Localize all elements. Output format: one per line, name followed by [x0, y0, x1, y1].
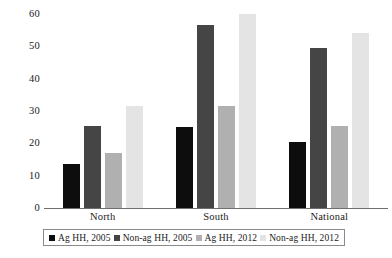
legend-item-2: Ag HH, 2012 — [196, 233, 258, 243]
legend-item-0: Ag HH, 2005 — [49, 233, 111, 243]
legend-item-1: Non-ag HH, 2005 — [114, 233, 193, 243]
bar-groups — [46, 14, 386, 208]
legend-swatch-icon-0 — [49, 235, 55, 241]
y-axis-tick-0: 0 — [0, 203, 40, 213]
chart-legend: Ag HH, 2005Non-ag HH, 2005Ag HH, 2012Non… — [43, 229, 345, 246]
y-axis-tick-50: 50 — [0, 41, 40, 51]
legend-swatch-icon-1 — [114, 235, 120, 241]
legend-label-1: Non-ag HH, 2005 — [123, 233, 193, 243]
bar-group-national — [289, 14, 369, 208]
bar-national-series-0 — [289, 142, 306, 208]
bar-north-series-2 — [105, 153, 122, 208]
x-axis-label-north: North — [53, 211, 153, 222]
y-axis-tick-30: 30 — [0, 106, 40, 116]
bar-chart: 0102030405060 NorthSouthNational Ag HH, … — [0, 0, 392, 258]
bar-national-series-3 — [352, 33, 369, 208]
y-axis-tick-60: 60 — [0, 9, 40, 19]
x-axis-label-national: National — [279, 211, 379, 222]
legend-label-2: Ag HH, 2012 — [205, 233, 258, 243]
x-axis-label-south: South — [166, 211, 266, 222]
legend-item-3: Non-ag HH, 2012 — [260, 233, 339, 243]
bar-north-series-3 — [126, 106, 143, 208]
x-axis-category-labels: NorthSouthNational — [46, 211, 386, 222]
bar-group-north — [63, 14, 143, 208]
bar-south-series-3 — [239, 14, 256, 208]
bar-group-south — [176, 14, 256, 208]
bar-national-series-1 — [310, 48, 327, 208]
bar-north-series-0 — [63, 164, 80, 208]
y-axis-tick-40: 40 — [0, 74, 40, 84]
y-axis-tick-20: 20 — [0, 138, 40, 148]
legend-swatch-icon-2 — [196, 235, 202, 241]
y-axis-tick-labels: 0102030405060 — [0, 14, 40, 208]
legend-label-3: Non-ag HH, 2012 — [269, 233, 339, 243]
bar-national-series-2 — [331, 126, 348, 208]
bar-north-series-1 — [84, 126, 101, 208]
x-axis-line — [44, 208, 388, 209]
bar-south-series-0 — [176, 127, 193, 208]
legend-swatch-icon-3 — [260, 235, 266, 241]
bar-south-series-1 — [197, 25, 214, 208]
y-axis-tick-10: 10 — [0, 171, 40, 181]
bar-south-series-2 — [218, 106, 235, 208]
legend-label-0: Ag HH, 2005 — [58, 233, 111, 243]
